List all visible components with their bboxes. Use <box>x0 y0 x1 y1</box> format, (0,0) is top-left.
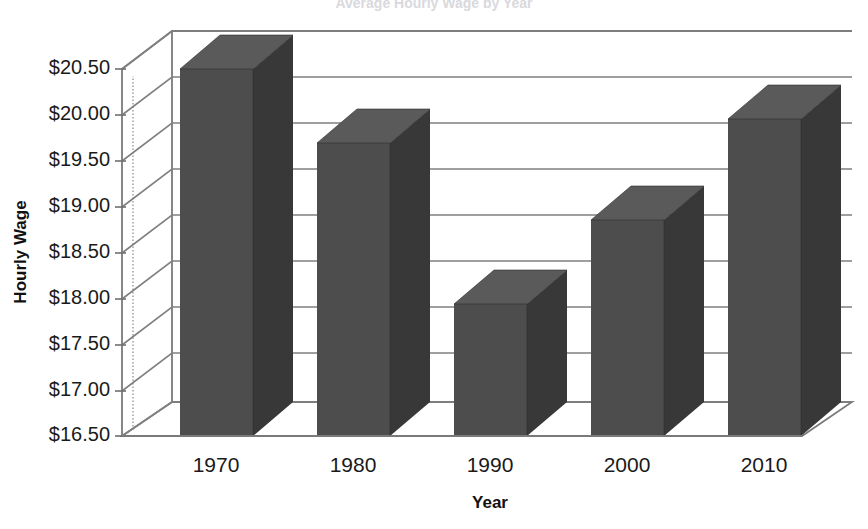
x-tick-label: 2010 <box>741 453 788 476</box>
y-axis-tick-labels: $20.50 $20.00 $19.50 $19.00 $18.50 $18.0… <box>49 56 110 445</box>
x-tick-label: 1990 <box>467 453 514 476</box>
x-tick-label: 1970 <box>193 453 240 476</box>
y-tick-label: $19.50 <box>49 148 110 170</box>
bar-group-1970 <box>180 35 293 436</box>
x-tick-label: 1980 <box>330 453 377 476</box>
x-axis-title: Year <box>472 493 508 512</box>
y-tick-label: $17.00 <box>49 378 110 400</box>
y-tick-label: $18.50 <box>49 240 110 262</box>
bar-group-2010 <box>728 85 841 436</box>
y-tick-label: $16.50 <box>49 423 110 445</box>
chart-title: Average Hourly Wage by Year <box>335 0 533 11</box>
x-tick-label: 2000 <box>604 453 651 476</box>
bar-group-2000 <box>591 186 704 436</box>
bar-chart-3d: Average Hourly Wage by Year <box>0 0 868 529</box>
y-axis-title: Hourly Wage <box>11 200 30 303</box>
bar-group-1990 <box>454 270 567 436</box>
chart-container: Average Hourly Wage by Year <box>0 0 868 529</box>
y-tick-label: $19.00 <box>49 194 110 216</box>
bar-group-1980 <box>317 109 430 436</box>
y-tick-label: $20.50 <box>49 56 110 78</box>
y-tick-label: $20.00 <box>49 102 110 124</box>
y-tick-label: $18.00 <box>49 286 110 308</box>
y-tick-label: $17.50 <box>49 332 110 354</box>
